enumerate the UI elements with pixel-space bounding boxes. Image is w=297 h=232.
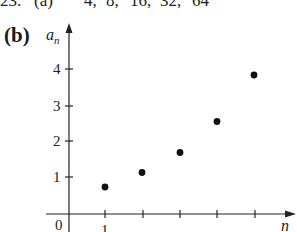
data-point-3 <box>177 149 184 156</box>
y-axis: 1 2 3 4 an <box>46 23 73 232</box>
x-tick-1: 1 <box>101 222 109 232</box>
y-tick-2: 2 <box>53 133 61 149</box>
data-points <box>102 72 258 191</box>
data-point-1 <box>102 184 109 191</box>
y-tick-4: 4 <box>53 61 61 77</box>
data-point-2 <box>139 169 146 176</box>
y-axis-arrow-icon <box>66 23 73 33</box>
data-point-4 <box>214 118 221 125</box>
y-axis-label: an <box>46 26 60 46</box>
origin-label: 0 <box>55 217 63 232</box>
x-axis-label: n <box>281 217 289 232</box>
x-axis: 1 0 n <box>46 210 296 232</box>
y-tick-3: 3 <box>53 98 61 114</box>
scatter-plot: 1 2 3 4 an 1 0 n <box>0 0 297 232</box>
data-point-5 <box>251 72 258 79</box>
y-tick-1: 1 <box>53 169 61 185</box>
